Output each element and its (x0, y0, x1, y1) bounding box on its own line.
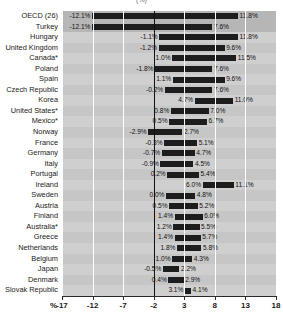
chart-row: United States*0.8%7.0% (62, 106, 276, 117)
category-label: Korea (38, 95, 58, 106)
chart-row: Greece1.4%5.7% (62, 232, 276, 243)
low-value-label: 4.7% (178, 95, 193, 106)
range-bar (164, 140, 197, 146)
category-label: Turkey (36, 22, 58, 33)
axis-tick (62, 296, 63, 300)
chart-row: Italy-0.9%4.5% (62, 159, 276, 170)
chart-row: Australia*1.2%5.5% (62, 222, 276, 233)
category-label: Slovak Republic (5, 285, 58, 296)
chart-row: Turkey-12.1%7.6% (62, 22, 276, 33)
range-bar (175, 235, 201, 241)
axis-tick (245, 296, 246, 300)
category-label: Norway (33, 127, 58, 138)
low-value-label: 1.1% (156, 74, 171, 85)
axis-tick (154, 296, 155, 300)
range-bar (92, 13, 238, 19)
chart-row: United Kingdom-1.2%9.6% (62, 43, 276, 54)
category-label: Ireland (35, 180, 58, 191)
range-bar (172, 256, 192, 262)
category-label: Canada* (29, 53, 58, 64)
category-label: United Kingdom (5, 43, 58, 54)
gridline (276, 11, 277, 296)
axis-tick-label: -12 (82, 301, 104, 310)
high-value-label: 7.6% (214, 22, 229, 33)
chart-row: Portugal0.2%5.4% (62, 169, 276, 180)
range-bar (160, 161, 193, 167)
low-value-label: -0.2% (146, 85, 163, 96)
plot-area: OECD (26)-12.1%11.8%Turkey-12.1%7.6%Hung… (62, 11, 276, 296)
category-label: Portugal (30, 169, 58, 180)
x-axis: -17-12-7-2381318 (62, 296, 276, 318)
category-label: Sweden (31, 190, 58, 201)
range-bar (159, 34, 238, 40)
axis-tick-label: -2 (143, 301, 165, 310)
high-value-label: 4.5% (195, 159, 210, 170)
category-label: Austria (35, 201, 58, 212)
low-value-label: 1.4% (158, 232, 173, 243)
low-value-label: -0.7% (143, 148, 160, 159)
high-value-label: 4.1% (193, 285, 208, 296)
low-value-label: 0.5% (152, 116, 167, 127)
chart-row: Norway-2.9%2.7% (62, 127, 276, 138)
category-label: Czech Republic (6, 85, 58, 96)
high-value-label: 5.8% (203, 243, 218, 254)
axis-tick-label: 13 (234, 301, 256, 310)
low-value-label: -0.3% (145, 138, 162, 149)
low-value-label: 0.8% (154, 106, 169, 117)
range-bar (203, 182, 234, 188)
high-value-label: 6.7% (208, 116, 223, 127)
range-bar (171, 108, 209, 114)
range-bar (148, 129, 182, 135)
chart-row: Canada*1.0%11.5% (62, 53, 276, 64)
axis-tick (215, 296, 216, 300)
axis-tick-label: 3 (173, 301, 195, 310)
category-label: Poland (35, 64, 58, 75)
low-value-label: -0.9% (142, 159, 159, 170)
category-label: Germany (28, 148, 58, 159)
chart-row: Denmark0.4%2.9% (62, 275, 276, 286)
low-value-label: -1.2% (140, 43, 157, 54)
range-bar (177, 245, 201, 251)
low-value-label: 0.2% (151, 169, 166, 180)
low-value-label: 0.5% (152, 201, 167, 212)
range-bar (169, 119, 207, 125)
axis-tick (184, 296, 185, 300)
chart-row: France-0.3%5.1% (62, 138, 276, 149)
high-value-label: 7.6% (214, 64, 229, 75)
category-label: Spain (39, 74, 58, 85)
range-bar (165, 87, 213, 93)
range-bar (185, 288, 191, 294)
category-label: France (35, 138, 58, 149)
axis-tick (93, 296, 94, 300)
high-value-label: 9.6% (226, 43, 241, 54)
low-value-label: 0.0% (149, 190, 164, 201)
high-value-label: 5.7% (202, 232, 217, 243)
high-value-label: 5.5% (201, 222, 216, 233)
high-value-label: 7.0% (210, 106, 225, 117)
chart-row: OECD (26)-12.1%11.8% (62, 11, 276, 22)
low-value-label: 0.4% (152, 275, 167, 286)
low-value-label: -2.9% (129, 127, 146, 138)
low-value-label: -0.5% (144, 264, 161, 275)
high-value-label: 11.5% (238, 53, 256, 64)
axis-line (62, 296, 276, 297)
high-value-label: 11.0% (235, 95, 253, 106)
range-bar (168, 277, 183, 283)
chart-row: Austria0.5%5.2% (62, 201, 276, 212)
high-value-label: 5.1% (199, 138, 214, 149)
chart-title: (%) (0, 0, 283, 4)
axis-tick-label: -7 (112, 301, 134, 310)
low-value-label: 1.2% (157, 222, 172, 233)
range-bar (155, 66, 212, 72)
category-label: Denmark (28, 275, 58, 286)
high-value-label: 2.2% (181, 264, 196, 275)
range-bar (162, 150, 195, 156)
axis-tick (123, 296, 124, 300)
high-value-label: 7.6% (214, 85, 229, 96)
range-bar (175, 214, 203, 220)
category-label: Hungary (30, 32, 58, 43)
range-bar (163, 266, 180, 272)
axis-tick-label: 8 (204, 301, 226, 310)
chart-row: Finland1.4%6.0% (62, 211, 276, 222)
chart-row: Korea4.7%11.0% (62, 95, 276, 106)
